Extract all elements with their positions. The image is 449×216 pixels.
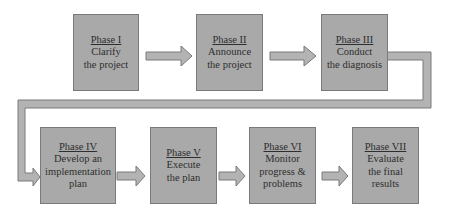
phase-7-box: Phase VII Evaluate the final results	[352, 127, 419, 204]
arrow-right-icon	[146, 46, 192, 66]
phase-title: Phase I	[91, 34, 122, 47]
phase-text: Clarify	[91, 46, 121, 59]
phase-6-box: Phase VI Monitor progress & problems	[249, 127, 316, 204]
phase-text: Monitor	[265, 153, 299, 166]
phase-title: Phase II	[212, 34, 246, 47]
phase-title: Phase III	[336, 34, 374, 47]
phase-4-box: Phase IV Develop an implementation plan	[40, 127, 116, 204]
phase-text: plan	[69, 178, 87, 191]
phase-text: Announce	[208, 46, 251, 59]
phase-title: Phase VII	[365, 141, 407, 154]
arrow-right-icon	[219, 166, 245, 186]
arrow-right-icon	[270, 46, 316, 66]
arrow-right-icon	[117, 166, 145, 186]
phase-text: the final	[368, 166, 403, 179]
phase-text: problems	[263, 178, 302, 191]
phase-title: Phase IV	[59, 141, 97, 154]
phase-text: the plan	[167, 172, 201, 185]
phase-text: implementation	[45, 166, 111, 179]
phase-1-box: Phase I Clarify the project	[73, 14, 139, 91]
phase-title: Phase V	[166, 147, 201, 160]
phase-text: Develop an	[54, 153, 102, 166]
phase-text: Execute	[167, 159, 201, 172]
phase-5-box: Phase V Execute the plan	[150, 127, 217, 204]
phase-text: results	[372, 178, 399, 191]
phase-text: Conduct	[337, 46, 373, 59]
phase-text: the diagnosis	[327, 59, 382, 72]
phase-title: Phase VI	[263, 141, 301, 154]
phase-2-box: Phase II Announce the project	[196, 14, 263, 91]
phase-text: the project	[207, 59, 252, 72]
phase-3-box: Phase III Conduct the diagnosis	[321, 14, 388, 91]
phase-text: Evaluate	[367, 153, 404, 166]
phase-text: progress &	[259, 166, 305, 179]
arrow-right-icon	[322, 166, 348, 186]
phase-text: the project	[84, 59, 129, 72]
